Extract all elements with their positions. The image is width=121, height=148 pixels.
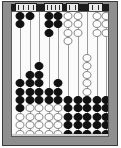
rod-7-bead-off[interactable] (73, 20, 82, 28)
rod-8-bead-off[interactable] (83, 79, 92, 87)
rod-2-bead-on[interactable] (25, 79, 34, 87)
rod-5-bead-on[interactable] (54, 96, 63, 104)
rod-7-bead-on[interactable] (73, 113, 82, 121)
rod-7-bead-off[interactable] (73, 12, 82, 20)
rod-7-bead-on[interactable] (73, 96, 82, 104)
plaque-tick (28, 5, 29, 10)
plaque-tick (75, 5, 76, 10)
rod-8-bead-off[interactable] (83, 88, 92, 96)
rod-5-bead-on[interactable] (54, 88, 63, 96)
plaque-tick (59, 5, 60, 10)
rod-8-bead-on[interactable] (83, 104, 92, 112)
rod-5-bead-off[interactable] (54, 121, 63, 129)
rod-9-bead-on[interactable] (92, 113, 101, 121)
rod-9-bead-on[interactable] (92, 121, 101, 129)
rod-10-bead-off[interactable] (102, 20, 109, 28)
rod-4-bead-off[interactable] (44, 113, 53, 121)
abacus-figure (0, 0, 121, 148)
plaque-tick (92, 5, 93, 10)
rod-6-bead-off[interactable] (64, 20, 73, 28)
rod-4-bead-on[interactable] (44, 20, 53, 28)
rod-8-bead-off[interactable] (83, 71, 92, 79)
rod-3-bead-off[interactable] (35, 113, 44, 121)
rod-5-bead-off[interactable] (54, 104, 63, 112)
rod-1-bead-on[interactable] (16, 20, 25, 28)
rod-8-bead-on[interactable] (83, 113, 92, 121)
rod-1-bead-off[interactable] (16, 113, 25, 121)
rod-6-bead-on[interactable] (64, 113, 73, 121)
plaque-tick (55, 5, 56, 10)
plaque-tick (18, 5, 19, 10)
plaque-tick (23, 5, 24, 10)
rod-2-bead-on[interactable] (25, 88, 34, 96)
plaque-tick (33, 5, 34, 10)
rod-6-bead-off[interactable] (64, 29, 73, 37)
plaque-tick (98, 5, 99, 10)
rod-4-bead-on[interactable] (44, 88, 53, 96)
rod-6-bead-on[interactable] (64, 104, 73, 112)
rod-3-bead-off[interactable] (35, 104, 44, 112)
rod-5-bead-on[interactable] (54, 79, 63, 87)
rod-6-bead-off[interactable] (64, 37, 73, 45)
rod-3-bead-on[interactable] (35, 71, 44, 79)
rod-10-bead-off[interactable] (102, 29, 109, 37)
rod-7-bead-on[interactable] (73, 121, 82, 129)
rod-9-bead-on[interactable] (92, 104, 101, 112)
abacus-bottom-rail (12, 134, 108, 136)
rod-6-bead-on[interactable] (64, 121, 73, 129)
rod-4-bead-on[interactable] (44, 96, 53, 104)
rod-2-bead-off[interactable] (25, 121, 34, 129)
rod-3-bead-on[interactable] (35, 88, 44, 96)
rod-6-bead-on[interactable] (64, 96, 73, 104)
rod-1-bead-off[interactable] (16, 121, 25, 129)
rod-10-bead-on[interactable] (102, 104, 109, 112)
rod-3-bead-on[interactable] (35, 62, 44, 70)
abacus-board (11, 11, 109, 137)
rod-7-bead-off[interactable] (73, 29, 82, 37)
rod-2-bead-off[interactable] (25, 104, 34, 112)
plaque-tick (69, 5, 70, 10)
rod-2-bead-on[interactable] (25, 96, 34, 104)
rod-5-bead-off[interactable] (54, 113, 63, 121)
rod-4-bead-off[interactable] (44, 104, 53, 112)
rod-3-bead-on[interactable] (35, 96, 44, 104)
rod-4-bead-off[interactable] (44, 121, 53, 129)
rod-1-bead-on[interactable] (16, 12, 25, 20)
rod-6-bead-off[interactable] (64, 12, 73, 20)
rod-5-bead-on[interactable] (54, 20, 63, 28)
rod-10-bead-on[interactable] (102, 113, 109, 121)
rod-1-bead-on[interactable] (16, 96, 25, 104)
rod-2-bead-off[interactable] (25, 113, 34, 121)
rod-1-bead-on[interactable] (16, 79, 25, 87)
rod-9-bead-off[interactable] (92, 29, 101, 37)
plaque-tick (51, 5, 52, 10)
rod-8-bead-off[interactable] (83, 54, 92, 62)
rod-5-bead-on[interactable] (54, 12, 63, 20)
rod-1-bead-on[interactable] (16, 88, 25, 96)
rod-10-bead-off[interactable] (102, 12, 109, 20)
plaque-tick (47, 5, 48, 10)
rod-8-bead-off[interactable] (83, 62, 92, 70)
rod-2-bead-on[interactable] (25, 12, 34, 20)
rod-3-bead-on[interactable] (35, 79, 44, 87)
rod-4-bead-on[interactable] (44, 29, 53, 37)
rod-1-bead-on[interactable] (16, 104, 25, 112)
rod-4-bead-on[interactable] (44, 12, 53, 20)
rod-10-bead-on[interactable] (102, 121, 109, 129)
rod-3-bead-off[interactable] (35, 121, 44, 129)
rod-8-bead-on[interactable] (83, 121, 92, 129)
rod-8-bead-on[interactable] (83, 96, 92, 104)
rod-9-bead-on[interactable] (92, 96, 101, 104)
rod-9-bead-off[interactable] (92, 20, 101, 28)
rod-2-bead-on[interactable] (25, 71, 34, 79)
rod-7-bead-on[interactable] (73, 104, 82, 112)
rod-9-bead-off[interactable] (92, 12, 101, 20)
rod-10-bead-on[interactable] (102, 96, 109, 104)
